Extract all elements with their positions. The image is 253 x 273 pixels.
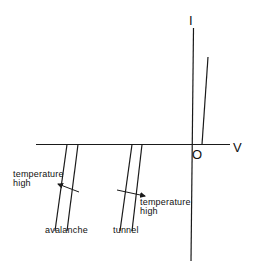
tunnel-temperature-arrow <box>117 190 145 196</box>
avalanche-label: avalanche <box>45 225 88 235</box>
v-axis-label: V <box>233 140 242 155</box>
tunnel-curve-low-temp <box>120 145 132 232</box>
forward-curve <box>202 57 208 145</box>
i-axis-label: I <box>189 13 193 28</box>
tunnel-label: tunnel <box>113 225 139 235</box>
avalanche-temperature-high-label: high <box>13 178 31 188</box>
tunnel-temperature-high-label: high <box>140 206 158 216</box>
tunnel-curve-high-temp <box>132 145 142 232</box>
iv-characteristic-diagram: I V O temperature high temperature high … <box>0 0 253 273</box>
origin-label: O <box>192 147 202 162</box>
avalanche-curve-high-temp <box>55 145 67 232</box>
